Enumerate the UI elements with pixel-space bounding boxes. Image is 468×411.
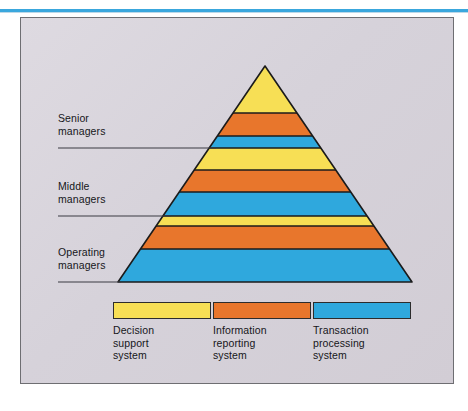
legend-label-information-reporting: Information reporting system [213,324,311,362]
legend-swatch-orange [213,302,311,319]
legend-item-decision-support: Decision support system [113,302,211,362]
legend-item-transaction-processing: Transaction processing system [313,302,411,362]
legend-2-line3: system [313,349,411,362]
legend-2-line2: processing [313,337,411,350]
legend-0-line2: support [113,337,211,350]
legend-1-line1: Information [213,324,311,337]
legend-0-line1: Decision [113,324,211,337]
legend-1-line3: system [213,349,311,362]
figure-canvas: Senior managers Middle managers Operatin… [0,0,468,411]
legend-label-decision-support: Decision support system [113,324,211,362]
legend-1-line2: reporting [213,337,311,350]
legend-swatch-blue [313,302,411,319]
legend: Decision support system Information repo… [0,0,468,411]
legend-label-transaction-processing: Transaction processing system [313,324,411,362]
legend-item-information-reporting: Information reporting system [213,302,311,362]
legend-0-line3: system [113,349,211,362]
legend-swatch-yellow [113,302,211,319]
legend-2-line1: Transaction [313,324,411,337]
